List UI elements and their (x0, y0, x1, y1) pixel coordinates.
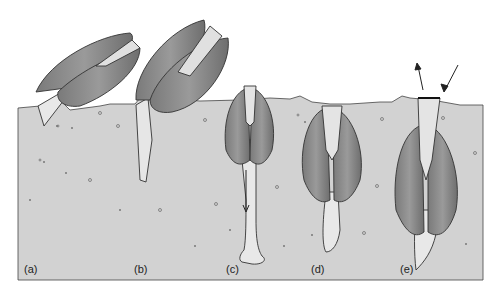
panel-label-d: (d) (311, 263, 324, 275)
panel-label-e: (e) (400, 263, 413, 275)
clam-burrowing-diagram (0, 0, 495, 294)
water-flow-arrows (415, 63, 458, 92)
panel-label-c: (c) (226, 263, 239, 275)
panel-label-b: (b) (134, 263, 147, 275)
siphon-c (244, 86, 256, 126)
panel-label-a: (a) (24, 263, 37, 275)
